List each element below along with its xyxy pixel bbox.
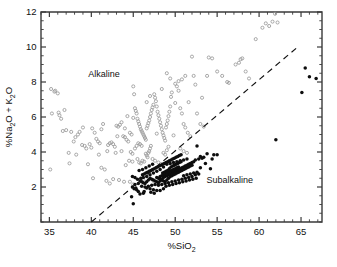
data-point-filled (210, 157, 214, 161)
data-point-filled (190, 163, 194, 167)
data-point-filled (182, 158, 186, 162)
data-point-filled (194, 177, 198, 181)
data-point-filled (152, 191, 156, 195)
data-point-filled (147, 184, 151, 188)
data-point-filled (164, 184, 168, 188)
data-point-filled (274, 138, 278, 142)
data-point-filled (137, 169, 141, 173)
data-point-filled (204, 162, 208, 166)
data-point-filled (199, 166, 203, 170)
data-point-filled (177, 165, 181, 169)
data-point-filled (144, 166, 148, 170)
data-point-filled (192, 171, 196, 175)
data-point-filled (152, 188, 156, 192)
data-point-filled (189, 172, 193, 176)
data-point-filled (171, 183, 175, 187)
y-tick-label: 10 (26, 41, 37, 52)
data-point-filled (130, 195, 134, 199)
data-point-filled (145, 175, 149, 179)
chart-canvas: 3540455055606524681012 AlkalineSubalkali… (0, 0, 337, 267)
data-point-filled (188, 178, 192, 182)
data-point-filled (132, 202, 136, 206)
data-point-filled (142, 191, 146, 195)
y-label-part3: O (3, 87, 14, 94)
data-point-filled (300, 91, 304, 95)
y-tick-label: 8 (31, 76, 36, 87)
x-tick-label: 60 (254, 226, 265, 237)
data-point-filled (153, 183, 157, 187)
data-point-filled (308, 75, 312, 79)
data-point-filled (185, 173, 189, 177)
data-point-filled (155, 170, 159, 174)
data-point-filled (205, 152, 209, 156)
data-point-filled (174, 182, 178, 186)
data-point-filled (178, 159, 182, 163)
data-point-filled (178, 181, 182, 185)
data-point-filled (182, 174, 186, 178)
data-point-filled (172, 161, 176, 165)
data-point-filled (140, 184, 144, 188)
data-point-filled (162, 165, 166, 169)
data-point-filled (179, 153, 183, 157)
data-point-filled (138, 192, 142, 196)
data-point-filled (168, 184, 172, 188)
data-point-filled (141, 168, 145, 172)
data-point-filled (158, 168, 162, 172)
x-label-main: %SiO (167, 240, 191, 251)
y-label-part1: %Na (3, 126, 14, 147)
y-tick-label: 6 (31, 111, 36, 122)
data-point-filled (181, 180, 185, 184)
data-point-filled (215, 153, 219, 157)
data-point-filled (209, 167, 213, 171)
y-tick-label: 4 (31, 146, 36, 157)
data-point-filled (314, 77, 318, 81)
x-tick-label: 40 (86, 226, 97, 237)
x-tick-label: 65 (296, 226, 307, 237)
x-tick-label: 55 (212, 226, 223, 237)
x-axis-label: %SiO2 (167, 240, 195, 253)
data-point-filled (157, 184, 161, 188)
data-point-filled (195, 144, 199, 148)
data-point-filled (303, 66, 307, 70)
data-point-filled (143, 185, 147, 189)
x-tick-label: 45 (128, 226, 139, 237)
data-point-filled (147, 164, 151, 168)
y-tick-label: 12 (26, 6, 37, 17)
data-point-filled (175, 160, 179, 164)
data-point-filled (191, 177, 195, 181)
data-point-filled (165, 163, 169, 167)
data-point-filled (185, 157, 189, 161)
data-point-filled (134, 186, 138, 190)
data-point-filled (158, 189, 162, 193)
data-point-filled (212, 153, 216, 157)
x-tick-label: 35 (44, 226, 55, 237)
geochemistry-tas-scatter-figure: 3540455055606524681012 AlkalineSubalkali… (0, 0, 337, 267)
data-point-filled (150, 184, 154, 188)
data-point-filled (151, 163, 155, 167)
data-point-filled (195, 170, 199, 174)
data-point-filled (199, 155, 203, 159)
data-point-filled (168, 162, 172, 166)
data-point-filled (184, 179, 188, 183)
x-tick-label: 50 (170, 226, 181, 237)
data-point-filled (162, 187, 166, 191)
data-point-filled (194, 158, 198, 162)
y-tick-label: 2 (31, 181, 36, 192)
data-point-filled (155, 189, 159, 193)
x-label-subscript: 2 (192, 246, 196, 253)
subalkaline-field-label: Subalkaline (206, 175, 253, 185)
data-point-filled (160, 183, 164, 187)
data-point-filled (202, 156, 206, 160)
data-point-filled (137, 182, 141, 186)
y-label-part2: O + K (3, 97, 14, 122)
alkaline-field-label: Alkaline (88, 69, 120, 79)
data-point-filled (149, 191, 153, 195)
data-point-filled (152, 171, 156, 175)
